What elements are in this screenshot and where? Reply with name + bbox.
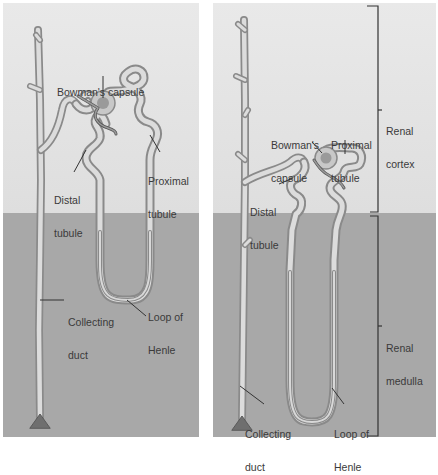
label-text-line2: capsule: [271, 173, 319, 184]
label-proximal-tubule-right: Proximal tubule: [331, 118, 372, 195]
label-loop-of-henle-left: Loop of Henle: [148, 290, 183, 367]
label-text-line1: Distal: [54, 195, 83, 206]
label-text-line2: Henle: [148, 345, 183, 356]
label-text-line2: duct: [245, 462, 291, 473]
right-glomerulus: [321, 153, 332, 164]
label-text-line2: tubule: [331, 173, 372, 184]
label-text-line1: Renal: [386, 343, 423, 354]
label-text-line1: Loop of: [334, 429, 369, 440]
label-text-line1: Collecting: [245, 429, 291, 440]
label-text-line2: cortex: [386, 159, 415, 170]
label-text-line2: tubule: [54, 228, 83, 239]
label-text-line1: Bowman's: [271, 140, 319, 151]
label-text-line1: Distal: [250, 207, 279, 218]
label-text-line2: duct: [68, 350, 114, 361]
label-text-line1: Collecting: [68, 317, 114, 328]
label-text-line2: tubule: [250, 240, 279, 251]
label-text-line2: medulla: [386, 376, 423, 387]
label-distal-tubule-left: Distal tubule: [54, 173, 83, 250]
label-text-line1: Renal: [386, 126, 415, 137]
label-collecting-duct-right: Collecting duct: [245, 407, 291, 475]
label-distal-tubule-right: Distal tubule: [250, 185, 279, 262]
label-bowmans-capsule-right: Bowman's capsule: [271, 118, 319, 195]
label-collecting-duct-left: Collecting duct: [68, 295, 114, 372]
label-loop-of-henle-right: Loop of Henle: [334, 407, 369, 475]
label-text: Bowman's capsule: [57, 87, 144, 98]
label-text-line2: tubule: [148, 209, 189, 220]
label-renal-cortex: Renal cortex: [386, 104, 415, 181]
label-text-line2: Henle: [334, 462, 369, 473]
label-renal-medulla: Renal medulla: [386, 321, 423, 398]
label-text-line1: Loop of: [148, 312, 183, 323]
label-text-line1: Proximal: [331, 140, 372, 151]
label-proximal-tubule-left: Proximal tubule: [148, 154, 189, 231]
label-bowmans-capsule-left: Bowman's capsule: [57, 65, 144, 109]
label-text-line1: Proximal: [148, 176, 189, 187]
